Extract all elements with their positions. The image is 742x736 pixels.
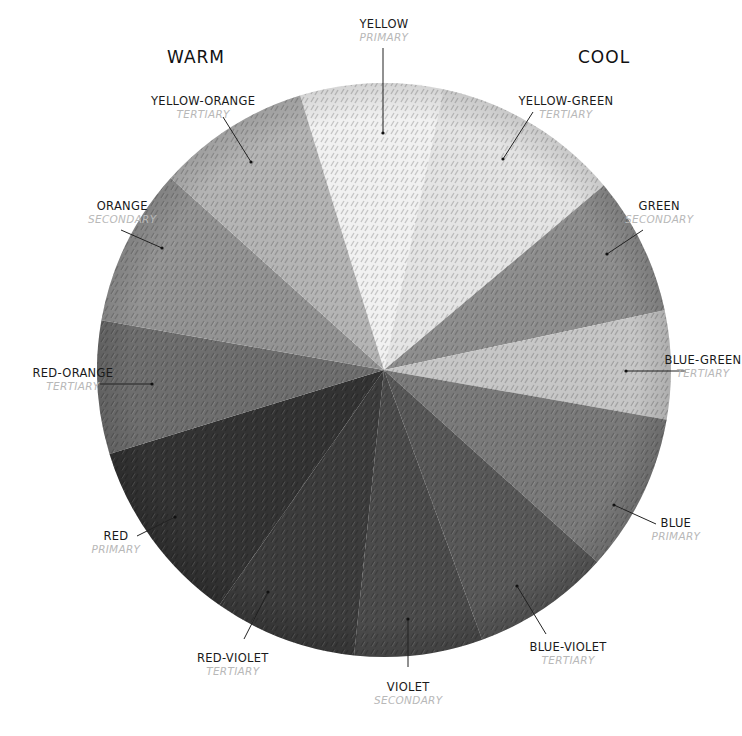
rim-shading	[97, 83, 671, 657]
label-violet: VIOLETSECONDARY	[374, 681, 442, 706]
color-name: ORANGE	[88, 200, 156, 213]
color-name: RED	[92, 530, 141, 543]
color-name: YELLOW-GREEN	[519, 95, 614, 108]
label-yellow-green: YELLOW-GREENTERTIARY	[519, 95, 614, 120]
color-category: TERTIARY	[519, 108, 614, 120]
color-category: PRIMARY	[360, 31, 409, 43]
label-red: REDPRIMARY	[92, 530, 141, 555]
color-category: SECONDARY	[625, 213, 693, 225]
color-name: BLUE	[652, 517, 701, 530]
label-blue-green: BLUE-GREENTERTIARY	[665, 354, 742, 379]
leader-dot-red	[173, 515, 176, 518]
label-blue-violet: BLUE-VIOLETTERTIARY	[530, 641, 607, 666]
color-name: RED-VIOLET	[197, 652, 269, 665]
leader-dot-blue	[612, 503, 615, 506]
color-name: VIOLET	[374, 681, 442, 694]
leader-dot-blue-green	[624, 369, 627, 372]
label-orange: ORANGESECONDARY	[88, 200, 156, 225]
label-red-violet: RED-VIOLETTERTIARY	[197, 652, 269, 677]
color-category: TERTIARY	[33, 380, 114, 392]
color-name: BLUE-VIOLET	[530, 641, 607, 654]
color-category: PRIMARY	[652, 530, 701, 542]
leader-dot-green	[605, 252, 608, 255]
color-category: TERTIARY	[197, 665, 269, 677]
color-name: YELLOW-ORANGE	[151, 95, 255, 108]
color-category: TERTIARY	[530, 654, 607, 666]
leader-dot-yellow-orange	[249, 160, 252, 163]
color-name: BLUE-GREEN	[665, 354, 742, 367]
label-yellow-orange: YELLOW-ORANGETERTIARY	[151, 95, 255, 120]
color-category: TERTIARY	[665, 367, 742, 379]
color-name: GREEN	[625, 200, 693, 213]
color-category: TERTIARY	[151, 108, 255, 120]
leader-dot-blue-violet	[515, 584, 518, 587]
leader-dot-red-violet	[266, 590, 269, 593]
label-yellow: YELLOWPRIMARY	[360, 18, 409, 43]
leader-dot-orange	[160, 246, 163, 249]
color-name: YELLOW	[360, 18, 409, 31]
warm-heading: WARM	[167, 47, 225, 67]
color-category: PRIMARY	[92, 543, 141, 555]
label-green: GREENSECONDARY	[625, 200, 693, 225]
color-name: RED-ORANGE	[33, 367, 114, 380]
leader-dot-violet	[406, 617, 409, 620]
leader-dot-red-orange	[150, 382, 153, 385]
cool-heading: COOL	[578, 47, 630, 67]
label-blue: BLUEPRIMARY	[652, 517, 701, 542]
leader-dot-yellow	[381, 131, 384, 134]
color-category: SECONDARY	[88, 213, 156, 225]
label-red-orange: RED-ORANGETERTIARY	[33, 367, 114, 392]
leader-dot-yellow-green	[501, 157, 504, 160]
color-category: SECONDARY	[374, 694, 442, 706]
